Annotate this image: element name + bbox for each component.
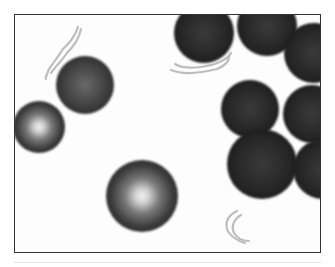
debris-filaments — [15, 15, 321, 253]
microscopy-image-frame — [14, 14, 321, 253]
bottom-rule — [14, 262, 321, 263]
